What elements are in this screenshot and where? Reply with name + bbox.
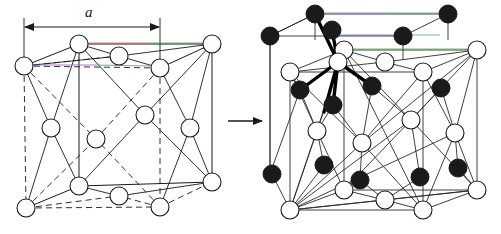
right-diamond-cell	[261, 5, 486, 219]
atom-corner	[17, 199, 35, 217]
fcc-atoms	[15, 35, 221, 217]
atom-tetrahedral-center	[329, 53, 347, 71]
atom-face-center	[446, 124, 464, 142]
atom-face-center	[376, 53, 394, 71]
atom-corner	[151, 198, 169, 216]
atom-corner	[151, 59, 169, 77]
interstitial-bonds	[270, 14, 477, 210]
atom-face-center	[376, 191, 394, 209]
atom-face-center	[136, 106, 154, 124]
atom-basis-b	[324, 96, 342, 114]
figure-canvas: a	[0, 0, 501, 234]
atom-basis-b	[315, 156, 333, 174]
atom-corner	[414, 201, 432, 219]
atom-basis-b	[449, 159, 467, 177]
atom-corner	[281, 63, 299, 81]
lattice-parameter-label: a	[85, 5, 93, 20]
atom-face-center	[402, 111, 420, 129]
atom-corner	[203, 173, 221, 191]
crystal-structure-svg	[0, 0, 501, 234]
atom-corner	[335, 181, 353, 199]
atom-corner	[414, 63, 432, 81]
atom-corner	[70, 35, 88, 53]
atom-face-center	[110, 47, 128, 65]
atom-corner	[281, 201, 299, 219]
left-fcc-cell	[15, 18, 221, 217]
atom-face-center	[42, 119, 60, 137]
atom-basis-b	[394, 27, 412, 45]
atom-basis-b	[351, 171, 369, 189]
atom-basis-b	[363, 77, 381, 95]
atom-corner	[468, 41, 486, 59]
atom-face-center	[308, 122, 326, 140]
diamond-cell-edges	[270, 14, 477, 210]
atom-face-center	[181, 119, 199, 137]
atom-basis-b	[432, 79, 450, 97]
atom-face-center	[87, 130, 105, 148]
atom-basis-b	[263, 165, 281, 183]
atom-face-center	[110, 187, 128, 205]
atom-corner	[468, 181, 486, 199]
atom-basis-b	[261, 27, 279, 45]
atom-corner	[70, 177, 88, 195]
atom-basis-b	[291, 81, 309, 99]
atom-corner	[15, 57, 33, 75]
atom-basis-b	[411, 168, 429, 186]
atom-corner	[203, 35, 221, 53]
atom-face-center	[353, 134, 371, 152]
atom-basis-b	[439, 5, 457, 23]
atom-basis-b	[323, 21, 341, 39]
atom-basis-b	[306, 5, 324, 23]
